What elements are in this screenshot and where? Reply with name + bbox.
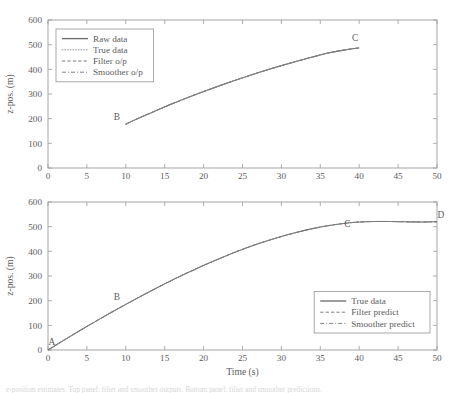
- point-label-b: B: [114, 292, 120, 302]
- point-label-a: A: [49, 337, 56, 347]
- top-chart-panel: 051015202530354045500100200300400500600z…: [0, 0, 461, 190]
- legend-label: True data: [351, 296, 386, 306]
- y-tick-label: 0: [37, 163, 42, 173]
- figure-caption: z-position estimates. Top panel: filter …: [0, 386, 461, 393]
- x-tick-label: 35: [316, 353, 326, 363]
- x-tick-label: 35: [316, 171, 326, 181]
- x-tick-label: 15: [160, 353, 170, 363]
- y-tick-label: 200: [28, 296, 42, 306]
- data-series-line: [126, 48, 359, 124]
- x-tick-label: 10: [121, 171, 131, 181]
- x-tick-label: 5: [85, 171, 90, 181]
- data-series-line: [126, 48, 359, 124]
- x-tick-label: 15: [160, 171, 170, 181]
- x-tick-label: 30: [277, 171, 287, 181]
- y-tick-label: 100: [28, 321, 42, 331]
- x-tick-label: 45: [394, 353, 404, 363]
- y-tick-label: 200: [28, 114, 42, 124]
- y-axis-title: z-pos. (m): [4, 256, 16, 295]
- point-label-c: C: [344, 219, 350, 229]
- figure-container: 051015202530354045500100200300400500600z…: [0, 0, 461, 393]
- top-chart-svg: 051015202530354045500100200300400500600z…: [0, 0, 461, 190]
- x-tick-label: 45: [394, 171, 404, 181]
- data-series-line: [126, 48, 359, 124]
- x-tick-label: 5: [85, 353, 90, 363]
- x-tick-label: 30: [277, 353, 287, 363]
- bottom-chart-panel: 051015202530354045500100200300400500600z…: [0, 190, 461, 393]
- x-tick-label: 25: [238, 353, 248, 363]
- legend-label: True data: [93, 45, 128, 55]
- y-tick-label: 600: [28, 15, 42, 25]
- y-tick-label: 600: [28, 197, 42, 207]
- legend-label: Filter o/p: [93, 56, 127, 66]
- point-label-d: D: [438, 210, 445, 220]
- x-tick-label: 50: [432, 353, 442, 363]
- x-tick-label: 0: [46, 171, 51, 181]
- x-axis-title: Time (s): [226, 366, 258, 378]
- data-series-line: [126, 48, 359, 124]
- y-axis-title: z-pos. (m): [4, 74, 16, 113]
- legend: Raw dataTrue dataFilter o/pSmoother o/p: [56, 29, 154, 82]
- legend: True dataFilter predictSmoother predict: [314, 291, 430, 333]
- y-tick-label: 500: [28, 222, 42, 232]
- legend-label: Smoother predict: [351, 319, 415, 329]
- x-tick-label: 0: [46, 353, 51, 363]
- y-tick-label: 300: [28, 271, 42, 281]
- x-tick-label: 40: [355, 353, 365, 363]
- legend-label: Raw data: [93, 34, 127, 44]
- bottom-chart-svg: 051015202530354045500100200300400500600z…: [0, 190, 461, 393]
- y-tick-label: 400: [28, 65, 42, 75]
- x-tick-label: 20: [199, 171, 209, 181]
- x-tick-label: 10: [121, 353, 131, 363]
- point-label-c: C: [352, 33, 358, 43]
- point-label-b: B: [114, 112, 120, 122]
- figure-caption-text: z-position estimates. Top panel: filter …: [6, 386, 322, 393]
- legend-label: Smoother o/p: [93, 67, 143, 77]
- y-tick-label: 0: [37, 345, 42, 355]
- x-tick-label: 25: [238, 171, 248, 181]
- legend-label: Filter predict: [351, 307, 399, 317]
- y-tick-label: 400: [28, 247, 42, 257]
- x-tick-label: 20: [199, 353, 209, 363]
- x-tick-label: 40: [355, 171, 365, 181]
- y-tick-label: 300: [28, 89, 42, 99]
- x-tick-label: 50: [432, 171, 442, 181]
- y-tick-label: 500: [28, 40, 42, 50]
- y-tick-label: 100: [28, 139, 42, 149]
